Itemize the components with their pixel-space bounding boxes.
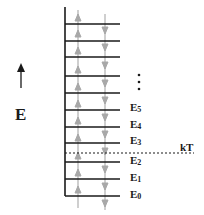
level-label-e4: E4: [130, 119, 141, 130]
level-label-e3: E3: [130, 135, 141, 146]
level-label-e1: E1: [130, 172, 141, 183]
energy-axis-arrow-icon: [17, 63, 25, 88]
level-label-e5: E5: [130, 102, 141, 113]
level-label-e0: E0: [130, 189, 141, 200]
energy-axis-label: E: [15, 106, 26, 123]
level-label-e2: E2: [130, 155, 141, 166]
energy-levels: [65, 24, 120, 196]
kt-label: kT: [180, 142, 193, 153]
downward-transition-arrows: [102, 14, 108, 210]
energy-level-diagram: [0, 0, 204, 215]
continuation-dots-icon: [138, 74, 141, 91]
